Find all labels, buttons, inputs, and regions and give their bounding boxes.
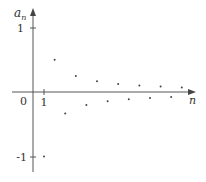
data-point <box>117 83 119 85</box>
data-point <box>43 156 45 158</box>
data-point <box>64 113 66 115</box>
data-point <box>54 59 56 61</box>
data-point <box>85 104 87 106</box>
data-point <box>149 97 151 99</box>
axes <box>12 8 196 172</box>
data-point <box>128 98 130 100</box>
origin-label: 0 <box>20 95 27 108</box>
x-axis-label: n <box>189 94 196 107</box>
data-point <box>107 100 109 102</box>
data-point <box>181 86 183 88</box>
y-axis-arrow-icon <box>30 8 36 16</box>
data-points <box>43 59 183 158</box>
data-point <box>170 96 172 98</box>
y-tick-label-1: 1 <box>17 22 24 35</box>
labels: an 1 -1 0 1 n <box>14 6 196 164</box>
sequence-plot: an 1 -1 0 1 n <box>0 0 206 182</box>
y-tick-label-neg1: -1 <box>16 151 27 164</box>
data-point <box>138 85 140 87</box>
data-point <box>96 80 98 82</box>
data-point <box>75 75 77 77</box>
x-tick-label-1: 1 <box>41 96 48 109</box>
data-point <box>160 86 162 88</box>
y-axis-label: an <box>14 6 26 22</box>
